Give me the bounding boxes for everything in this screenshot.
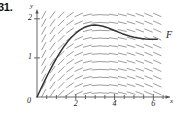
y-axis-arrow-icon [35,9,38,14]
slope-mark [118,84,127,86]
slope-mark [109,22,118,23]
slope-mark [127,84,136,87]
slope-mark [92,77,101,78]
slope-mark [66,28,73,33]
slope-mark [92,54,101,55]
slope-mark [153,91,161,95]
slope-mark [58,90,64,96]
slope-mark [83,37,92,39]
slope-mark [92,38,101,39]
slope-mark [83,69,92,71]
slope-mark [50,74,55,81]
slope-mark [153,29,161,33]
slope-mark [153,60,161,64]
slope-mark [118,45,127,47]
slope-mark [127,14,136,17]
slope-mark [50,82,55,89]
slope-mark [153,68,161,72]
slope-mark [144,91,152,94]
slope-mark [144,84,152,87]
slope-mark [58,20,64,26]
x-tick-label-4: 4 [113,99,117,108]
slope-mark [42,19,46,27]
slope-mark [136,52,144,55]
slope-mark [66,20,73,25]
slope-mark [153,13,161,17]
slope-mark [109,38,118,39]
slope-mark [109,46,118,47]
x-tick-label-6: 6 [151,99,155,108]
slope-mark [42,50,46,58]
slope-mark [118,37,127,39]
slope-mark [50,89,55,96]
slope-mark [127,92,136,95]
slope-mark [42,27,46,35]
slope-mark [66,83,73,88]
slope-mark [153,83,161,87]
slope-mark [144,52,152,55]
slope-mark [92,15,101,16]
slope-mark [75,68,83,72]
slope-mark [58,74,64,80]
slope-mark [118,30,127,32]
slope-mark [50,27,55,34]
slope-mark [83,53,92,55]
slope-mark [75,76,83,80]
slope-mark [127,45,136,48]
slope-mark [136,45,144,48]
slope-mark [58,35,64,41]
slope-mark [118,76,127,78]
x-tick-label-2: 2 [74,99,78,108]
slope-mark [144,44,152,47]
slope-mark [136,21,144,24]
slope-mark [127,76,136,79]
slope-mark [42,11,46,19]
slope-mark [66,51,73,56]
slope-mark [109,85,118,86]
slope-mark [92,30,101,31]
slope-mark [144,29,152,32]
slope-mark [66,91,73,96]
slope-mark [109,77,118,78]
curve-label-F: F [166,29,172,40]
slope-mark [42,66,46,74]
slope-mark [109,14,118,15]
slope-mark [118,69,127,71]
slope-mark [50,35,55,42]
slope-mark [66,59,73,64]
slope-mark [50,11,55,18]
slope-mark [118,14,127,16]
slope-mark [42,89,46,97]
slope-mark [83,14,92,16]
slope-mark [136,13,144,16]
slope-mark [75,21,83,25]
slope-mark [75,13,83,17]
slope-mark [136,60,144,63]
slope-mark [75,44,83,48]
slope-mark [118,92,127,94]
slope-mark [109,92,118,93]
slope-mark [153,52,161,56]
slope-mark [144,76,152,79]
slope-mark [136,76,144,79]
slope-mark [42,34,46,42]
slope-mark [75,37,83,41]
slope-mark [127,21,136,24]
slope-mark [83,76,92,78]
slope-mark [136,68,144,71]
slope-mark [118,22,127,24]
slope-mark [83,84,92,86]
slope-mark [144,60,152,63]
slope-mark [58,82,64,88]
slope-mark [92,85,101,86]
slope-mark [58,27,64,33]
slope-mark [50,43,55,50]
slope-mark [127,53,136,56]
slope-mark [118,53,127,55]
slope-mark [109,53,118,54]
slope-mark [42,42,46,50]
slope-mark [66,67,73,72]
slope-mark [92,22,101,23]
slope-mark [66,44,73,49]
slope-mark [83,22,92,24]
